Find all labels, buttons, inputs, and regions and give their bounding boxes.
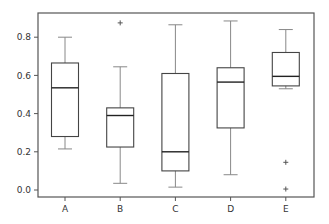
x-tick-label-c: C [172, 204, 178, 214]
x-tick-label-a: A [62, 204, 69, 214]
x-tick-label-e: E [283, 204, 289, 214]
y-tick-label: 0.6 [17, 71, 32, 81]
y-axis: 0.00.20.40.60.8 [17, 32, 38, 195]
box-plot-chart: 0.00.20.40.60.8 ABCDE [0, 0, 329, 224]
y-tick-label: 0.2 [17, 147, 31, 157]
y-tick-label: 0.0 [17, 185, 32, 195]
x-axis: ABCDE [62, 197, 289, 214]
y-tick-label: 0.8 [17, 32, 32, 42]
x-tick-label-d: D [227, 204, 234, 214]
y-tick-label: 0.4 [17, 109, 32, 119]
axes-frame [38, 13, 314, 197]
plot-area [38, 13, 314, 197]
x-tick-label-b: B [117, 204, 123, 214]
